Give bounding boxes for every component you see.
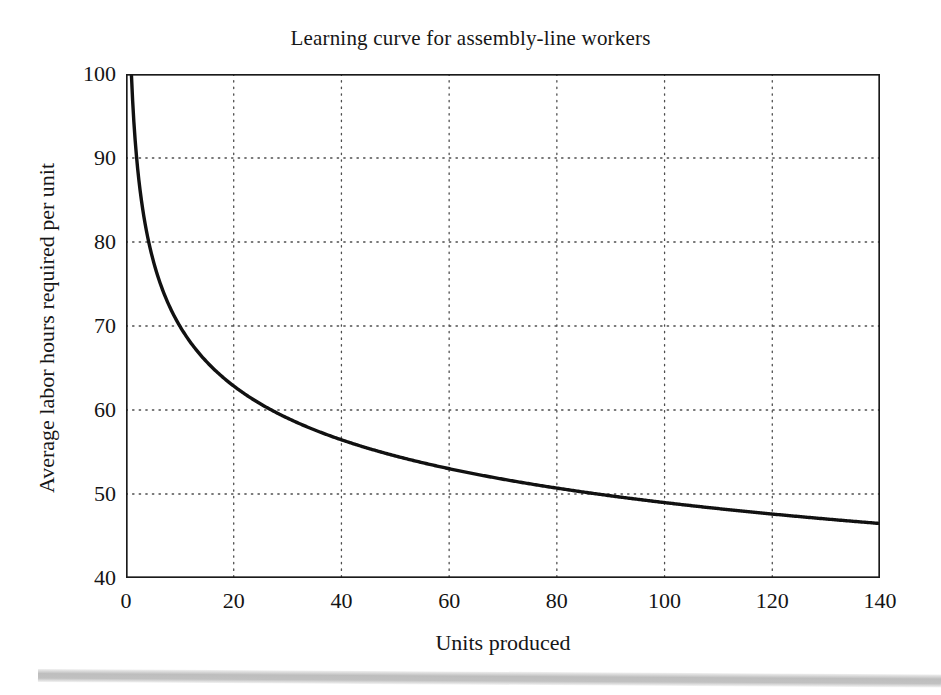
x-tick-label-100: 100 bbox=[630, 590, 700, 612]
y-tick-label-80: 80 bbox=[52, 231, 116, 253]
y-tick-label-100: 100 bbox=[52, 63, 116, 85]
figure-container: Learning curve for assembly-line workers… bbox=[0, 0, 941, 695]
y-tick-label-60: 60 bbox=[52, 399, 116, 421]
learning-curve-line bbox=[131, 74, 880, 523]
x-axis-title: Units produced bbox=[126, 630, 880, 656]
x-tick-label-20: 20 bbox=[199, 590, 269, 612]
y-tick-label-40: 40 bbox=[52, 567, 116, 589]
plot-svg bbox=[126, 74, 880, 578]
y-axis-title: Average labor hours required per unit bbox=[34, 68, 60, 588]
plot-area bbox=[126, 74, 880, 578]
x-tick-label-140: 140 bbox=[845, 590, 915, 612]
x-tick-label-120: 120 bbox=[737, 590, 807, 612]
x-tick-label-80: 80 bbox=[522, 590, 592, 612]
x-axis-tick-labels: 020406080100120140 bbox=[126, 590, 880, 620]
x-tick-label-60: 60 bbox=[414, 590, 484, 612]
y-tick-label-90: 90 bbox=[52, 147, 116, 169]
chart-title: Learning curve for assembly-line workers bbox=[0, 26, 941, 51]
x-tick-label-0: 0 bbox=[91, 590, 161, 612]
y-tick-label-50: 50 bbox=[52, 483, 116, 505]
y-tick-label-70: 70 bbox=[52, 315, 116, 337]
x-tick-label-40: 40 bbox=[306, 590, 376, 612]
scan-shadow-band bbox=[38, 669, 941, 688]
horizontal-gridlines bbox=[126, 158, 880, 494]
